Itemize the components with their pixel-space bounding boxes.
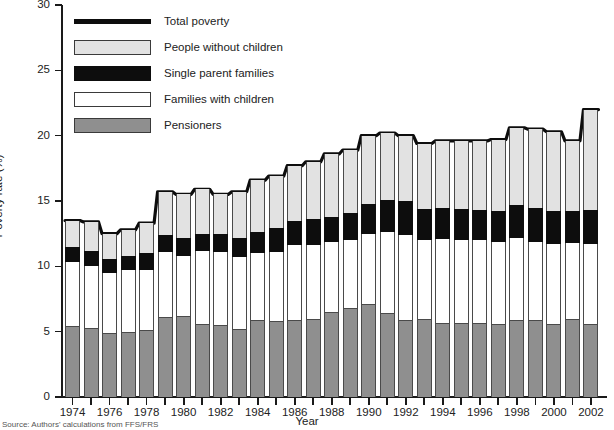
legend-label-people-without-children: People without children [164,40,283,55]
bar-segment-pens [509,320,524,397]
bar-segment-nokid [435,141,450,208]
bar-segment-fam [528,242,543,320]
legend-label-families-with-children: Families with children [164,92,274,107]
bar-segment-sing [417,209,432,240]
bar-segment-pens [84,328,99,397]
x-axis-tick [109,398,111,405]
y-axis-tick [55,331,62,333]
bar-segment-pens [139,330,154,397]
y-axis-tick-label: 20 [14,130,50,142]
bar-segment-pens [306,319,321,397]
bar-segment-sing [213,234,228,252]
x-axis-tick [257,398,259,405]
bar-segment-sing [269,228,284,252]
bar-segment-fam [102,273,117,333]
bar-segment-nokid [528,129,543,207]
bar-segment-fam [435,239,450,323]
bar-segment-nokid [417,144,432,209]
legend-swatch-single-parent-families [74,66,151,81]
bar-segment-fam [361,234,376,305]
bar-segment-pens [491,324,506,397]
bar-segment-nokid [269,176,284,228]
bar-segment-sing [472,210,487,240]
bar-segment-sing [250,232,265,253]
bar-segment-sing [232,238,247,258]
bar-segment-sing [380,200,395,233]
y-axis-tick [55,4,62,6]
bar-segment-fam [232,257,247,329]
bar-segment-sing [361,204,376,234]
x-axis-tick [164,398,166,405]
bar-segment-nokid [324,154,339,217]
bar-segment-pens [324,312,339,397]
y-axis-tick [55,70,62,72]
bar-segment-pens [287,320,302,397]
bar-segment-pens [398,320,413,397]
chart-legend: Total poverty People without children Si… [74,12,374,142]
bar-1995 [454,5,469,397]
bar-segment-sing [583,210,598,244]
bar-segment-sing [528,208,543,242]
bar-segment-sing [65,247,80,263]
legend-label-pensioners: Pensioners [164,118,222,133]
bar-segment-pens [546,324,561,397]
bar-segment-sing [509,205,524,238]
legend-item-single-parent-families: Single parent families [74,64,374,85]
y-axis-tick-label: 10 [14,260,50,272]
legend-item-pensioners: Pensioners [74,116,374,137]
bar-segment-sing [454,209,469,240]
x-axis-tick [460,398,462,405]
bar-segment-pens [380,313,395,397]
bar-segment-nokid [454,141,469,209]
bar-segment-pens [232,329,247,397]
bar-segment-sing [195,234,210,251]
bar-segment-sing [343,213,358,240]
bar-segment-nokid [546,132,561,212]
x-axis-tick [312,398,314,405]
x-axis-tick [572,398,574,405]
legend-item-families-with-children: Families with children [74,90,374,111]
bar-segment-pens [361,304,376,397]
x-axis-tick [590,398,592,405]
bar-segment-fam [565,243,580,319]
x-axis-tick [294,398,296,405]
bar-segment-fam [343,240,358,308]
bar-segment-pens [269,321,284,397]
bar-segment-nokid [343,150,358,213]
x-axis-tick [349,398,351,405]
y-axis-tick-label: 5 [14,326,50,338]
bar-segment-fam [195,251,210,324]
bar-segment-fam [491,242,506,324]
bar-segment-fam [269,252,284,321]
bar-segment-pens [121,332,136,397]
legend-swatch-total-poverty [74,19,151,24]
bar-segment-sing [491,211,506,241]
bar-segment-fam [84,266,99,327]
legend-swatch-pensioners [74,118,151,133]
bar-segment-nokid [213,194,228,233]
bar-segment-nokid [583,110,598,211]
bar-segment-sing [121,256,136,270]
bar-segment-sing [435,208,450,239]
bar-segment-nokid [158,192,173,235]
bar-segment-fam [65,262,80,326]
bar-segment-nokid [84,222,99,251]
y-axis-tick [55,135,62,137]
bar-segment-pens [176,316,191,397]
y-axis-tick-label: 25 [14,64,50,76]
bar-segment-nokid [380,133,395,200]
x-axis-tick [423,398,425,405]
bar-segment-fam [250,253,265,320]
bar-segment-pens [195,324,210,397]
x-axis-tick [146,398,148,405]
bar-segment-nokid [509,128,524,205]
legend-swatch-families-with-children [74,92,151,107]
bar-segment-sing [176,238,191,256]
legend-swatch-people-without-children [74,40,151,55]
y-axis-tick [55,396,62,398]
x-axis-tick [535,398,537,405]
chart-figure: Poverty rate (%) 05101520253019741976197… [0,0,614,430]
bar-2002 [583,5,598,397]
x-axis-tick [331,398,333,405]
bar-segment-pens [213,325,228,397]
